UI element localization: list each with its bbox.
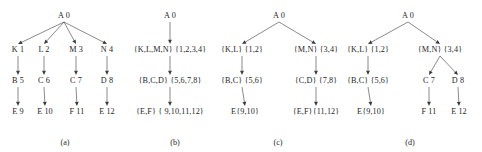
tree-edge-arrowhead: [314, 71, 318, 75]
panel-caption: (c): [273, 138, 282, 147]
tree-edge-line: [368, 87, 370, 102]
tree-edge-line: [47, 22, 64, 41]
tree-node: A 0: [164, 12, 176, 20]
tree-node: C 6: [38, 77, 50, 85]
tree-node: L 2: [38, 46, 49, 54]
tree-edge-arrowhead: [427, 102, 431, 106]
tree-node: {M,N} {3,4}: [418, 46, 462, 54]
tree-node: F 11: [422, 108, 437, 116]
tree-node: {B,C} {5,6}: [221, 77, 263, 85]
tree-node: A 0: [58, 12, 70, 20]
tree-edge-arrowhead: [242, 40, 247, 44]
tree-node: E 12: [99, 108, 115, 116]
tree-edge-line: [372, 22, 408, 42]
tree-node: {E,F}{11,12}: [293, 108, 340, 116]
tree-node: {K,L} {1,2}: [221, 46, 263, 54]
tree-edge-line: [242, 87, 244, 102]
tree-edge-arrowhead: [457, 102, 461, 106]
tree-edge-arrowhead: [366, 71, 370, 75]
tree-edge-arrowhead: [242, 102, 246, 106]
tree-edge-arrowhead: [18, 40, 23, 44]
tree-edge-arrowhead: [168, 71, 172, 75]
tree-edge-arrowhead: [311, 40, 316, 44]
tree-edge-arrowhead: [240, 71, 244, 75]
tree-edge-arrowhead: [168, 40, 172, 44]
tree-node: {E,F} { 9,10,11,12}: [136, 108, 204, 116]
tree-node: B 5: [12, 77, 24, 85]
tree-edge-line: [431, 56, 440, 71]
tree-edge-line: [64, 22, 103, 42]
tree-node: E{9,10}: [357, 108, 385, 116]
tree-node: C 7: [423, 77, 435, 85]
tree-node: K 1: [12, 46, 24, 54]
tree-edge-arrowhead: [368, 102, 372, 106]
tree-node: N 4: [101, 46, 113, 54]
panel-caption: (d): [405, 138, 415, 147]
tree-node: D 8: [452, 77, 464, 85]
tree-node: E 10: [37, 108, 53, 116]
tree-node: D 8: [101, 77, 113, 85]
tree-edge-arrowhead: [314, 102, 318, 106]
tree-panel-c: A 0{K,L} {1,2}{M,N} {3,4}{B,C} {5,6}{C,D…: [215, 0, 343, 152]
tree-node: F 11: [70, 108, 85, 116]
tree-edge-arrowhead: [429, 70, 433, 75]
tree-node: A 0: [273, 12, 285, 20]
tree-edge-arrowhead: [43, 102, 47, 106]
tree-edge-arrowhead: [42, 71, 46, 75]
tree-edge-line: [22, 22, 64, 42]
tree-edge-arrowhead: [75, 102, 79, 106]
tree-node: {K,L,M,N} {1,2,3,4}: [134, 46, 206, 54]
tree-panel-d: A 0{K,L} {1,2}{M,N} {3,4}{B,C} {5,6}C 7D…: [340, 0, 482, 152]
tree-edge-line: [408, 22, 437, 42]
tree-edge-line: [246, 22, 279, 42]
tree-edge-line: [279, 22, 312, 42]
tree-node: E 12: [451, 108, 467, 116]
tree-edge-arrowhead: [435, 40, 440, 44]
tree-edge-arrowhead: [368, 40, 373, 44]
tree-node: {B,C} {5,6}: [347, 77, 389, 85]
tree-node: {M,N} {3,4}: [294, 46, 338, 54]
tree-edge-arrowhead: [74, 71, 78, 75]
tree-edge-arrowhead: [102, 40, 107, 44]
tree-edge-arrowhead: [105, 71, 109, 75]
tree-edge-arrowhead: [16, 71, 20, 75]
tree-edge-arrowhead: [105, 102, 109, 106]
tree-edge-arrowhead: [44, 40, 48, 44]
panel-caption: (b): [170, 138, 180, 147]
tree-edge-arrowhead: [168, 102, 172, 106]
tree-node: E 9: [12, 108, 23, 116]
tree-panel-b: A 0{K,L,M,N} {1,2,3,4}{B,C,D} {5,6,7,8}{…: [120, 0, 220, 152]
tree-node: C 7: [70, 77, 82, 85]
tree-node: {B,C,D} {5,6,7,8}: [139, 77, 202, 85]
figure-container: A 0K 1L 2M 3N 4B 5C 6C 7D 8E 9E 10F 11E …: [0, 0, 482, 152]
tree-edge-line: [76, 87, 77, 102]
tree-panel-a: A 0K 1L 2M 3N 4B 5C 6C 7D 8E 9E 10F 11E …: [0, 0, 130, 152]
tree-edge-line: [458, 87, 459, 102]
tree-node: {C,D} {7,8}: [295, 77, 338, 85]
tree-node: M 3: [69, 46, 83, 54]
tree-node: A 0: [402, 12, 414, 20]
tree-edge-line: [44, 87, 45, 102]
tree-edge-line: [64, 22, 74, 40]
tree-edge-arrowhead: [16, 102, 20, 106]
panel-caption: (a): [60, 138, 69, 147]
tree-edge-arrowhead: [454, 71, 458, 75]
tree-node: {K,L} {1,2}: [347, 46, 389, 54]
tree-edge-line: [440, 56, 455, 72]
tree-node: E{9,10}: [231, 108, 259, 116]
tree-edge-arrowhead: [72, 39, 76, 44]
